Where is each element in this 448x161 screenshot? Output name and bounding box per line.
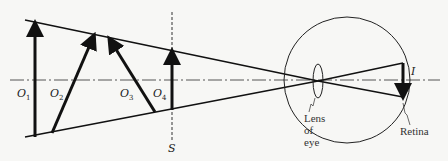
label-o2: O2 xyxy=(50,87,64,102)
retina-leader-line xyxy=(403,103,410,125)
label-lens-eye: eye xyxy=(304,136,319,148)
label-i: I xyxy=(410,65,416,78)
label-s: S xyxy=(168,142,176,155)
visual-angle-diagram: O1 O2 O3 O4 S I Lens of eye Retina xyxy=(0,0,448,161)
lens-leader-line xyxy=(309,98,315,112)
lower-ray-inside-eye xyxy=(318,63,403,81)
label-lens: Lens xyxy=(304,112,325,124)
upper-ray-inside-eye xyxy=(318,81,403,97)
label-retina: Retina xyxy=(400,125,429,137)
object-arrow-o3 xyxy=(112,43,155,112)
label-o1: O1 xyxy=(17,87,31,102)
label-lens-of: of xyxy=(304,124,314,136)
label-o3: O3 xyxy=(120,87,134,102)
label-o4: O4 xyxy=(153,87,167,102)
